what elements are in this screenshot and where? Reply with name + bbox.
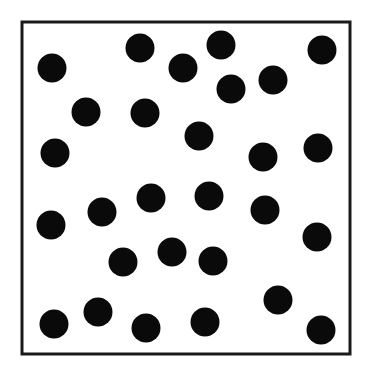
- dot: [195, 182, 224, 211]
- dot: [132, 314, 161, 343]
- dot: [304, 134, 333, 163]
- dot: [88, 198, 117, 227]
- dot: [217, 75, 246, 104]
- dot: [199, 247, 228, 276]
- dot: [41, 139, 70, 168]
- dot: [137, 184, 166, 213]
- dot: [264, 286, 293, 315]
- dot: [259, 66, 288, 95]
- dot: [72, 98, 101, 127]
- dot: [37, 211, 66, 240]
- dot: [109, 248, 138, 277]
- dot: [303, 223, 332, 252]
- dot: [38, 54, 67, 83]
- dot: [185, 122, 214, 151]
- dot: [307, 316, 336, 345]
- dot-diagram: [0, 0, 371, 375]
- dot: [158, 238, 187, 267]
- dot: [169, 54, 198, 83]
- dot: [249, 143, 278, 172]
- dot: [251, 196, 280, 225]
- dot: [308, 36, 337, 65]
- dot: [40, 310, 69, 339]
- dot: [191, 308, 220, 337]
- dot: [131, 99, 160, 128]
- dot: [84, 298, 113, 327]
- dots-group: [37, 31, 337, 345]
- dot: [207, 31, 236, 60]
- dot: [126, 34, 155, 63]
